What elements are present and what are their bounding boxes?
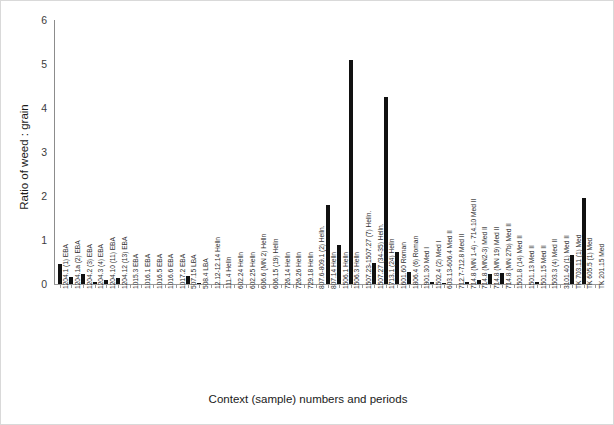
bar [477,280,481,284]
x-tick-mark [467,285,468,288]
bar [93,282,97,284]
bar [58,264,62,284]
bar [116,278,120,284]
x-tick-mark [293,285,294,288]
x-tick-mark [572,285,573,288]
x-tick-mark [281,285,282,288]
y-tick-label: 2 [23,190,47,202]
x-tick-mark [141,285,142,288]
bar [488,274,492,284]
x-tick-mark [130,285,131,288]
x-tick-mark [409,285,410,288]
x-tick-mark [432,285,433,288]
x-tick-mark [269,285,270,288]
bar [500,273,504,284]
bar [197,283,201,284]
bar [349,60,353,284]
x-tick-mark [560,285,561,288]
bar-chart-figure: Ratio of weed : grain 0123456 1204.1 (1)… [0,0,614,425]
x-tick-mark [199,285,200,288]
x-tick-mark [258,285,259,288]
x-tick-mark [479,285,480,288]
x-tick-mark [537,285,538,288]
x-tick-mark [60,285,61,288]
x-tick-mark [456,285,457,288]
bar [104,280,108,284]
x-tick-mark [525,285,526,288]
x-tick-mark [502,285,503,288]
y-axis-tick-labels: 0123456 [23,1,47,425]
x-tick-mark [176,285,177,288]
y-tick-label: 5 [23,58,47,70]
bar [372,263,376,284]
x-tick-mark [595,285,596,288]
x-tick-mark [304,285,305,288]
bar [430,282,434,284]
x-tick-mark [316,285,317,288]
bar [582,198,586,284]
bar [395,252,399,284]
x-tick-mark [514,285,515,288]
x-tick-mark [386,285,387,288]
x-tick-mark [362,285,363,288]
x-tick-mark [490,285,491,288]
x-tick-mark [339,285,340,288]
x-tick-mark [351,285,352,288]
x-tick-mark [153,285,154,288]
bar [442,283,446,284]
x-tick-mark [584,285,585,288]
x-tick-mark [234,285,235,288]
x-tick-mark [223,285,224,288]
x-axis-title: Context (sample) numbers and periods [1,393,614,405]
x-tick-mark [211,285,212,288]
bar [465,282,469,284]
x-tick-mark [246,285,247,288]
x-tick-mark [118,285,119,288]
y-tick-label: 4 [23,102,47,114]
bar [570,255,574,284]
x-tick-mark [83,285,84,288]
bar [81,274,85,284]
x-tick-mark [374,285,375,288]
bar [326,205,330,284]
bar [384,97,388,284]
x-tick-mark [95,285,96,288]
x-tick-mark [549,285,550,288]
bar [407,272,411,284]
y-tick-label: 6 [23,14,47,26]
bar [69,277,73,284]
bar [535,282,539,284]
y-tick-label: 1 [23,234,47,246]
x-tick-mark [444,285,445,288]
plot-area [54,20,601,284]
y-tick-label: 3 [23,146,47,158]
bar [186,276,190,284]
x-tick-mark [165,285,166,288]
x-tick-mark [328,285,329,288]
x-tick-mark [188,285,189,288]
x-tick-mark [421,285,422,288]
x-tick-mark [397,285,398,288]
bar [337,245,341,284]
x-tick-mark [71,285,72,288]
y-tick-label: 0 [23,278,47,290]
x-tick-mark [106,285,107,288]
